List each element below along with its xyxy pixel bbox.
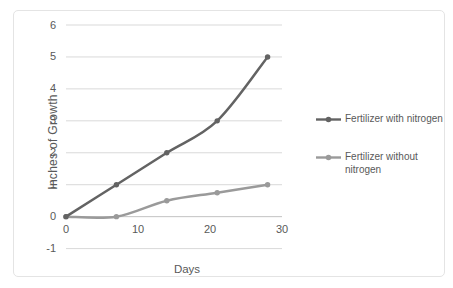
- y-tick-label: -1: [16, 242, 56, 255]
- data-point-series-0: [164, 150, 169, 155]
- legend-line-marker-icon: [315, 113, 342, 126]
- legend-line-marker-icon: [315, 151, 342, 164]
- chart-area: -10123456 0102030 Inches of Growth Days …: [13, 10, 445, 277]
- x-tick-label: 10: [123, 223, 153, 236]
- data-point-series-0: [63, 214, 68, 219]
- data-point-series-1: [114, 214, 119, 219]
- legend-item-1: Fertilizer without nitrogen: [315, 150, 448, 176]
- legend-label: Fertilizer with nitrogen: [345, 112, 448, 125]
- y-axis-title: Inches of Growth: [46, 94, 60, 190]
- data-point-series-1: [164, 198, 169, 203]
- x-tick-label: 0: [51, 223, 81, 236]
- data-point-series-1: [215, 190, 220, 195]
- y-tick-label: 6: [16, 19, 56, 32]
- plot-canvas: [1, 1, 453, 288]
- data-point-series-0: [114, 182, 119, 187]
- x-axis-title: Days: [174, 263, 200, 275]
- data-point-series-0: [215, 118, 220, 123]
- data-point-series-0: [265, 54, 270, 59]
- series-line-0: [66, 57, 268, 217]
- legend-item-0: Fertilizer with nitrogen: [315, 112, 448, 126]
- x-tick-label: 20: [195, 223, 225, 236]
- y-tick-label: 5: [16, 50, 56, 63]
- chart-image: -10123456 0102030 Inches of Growth Days …: [0, 0, 453, 288]
- y-tick-label: 0: [16, 210, 56, 223]
- legend-label: Fertilizer without nitrogen: [345, 150, 448, 176]
- data-point-series-1: [265, 182, 270, 187]
- x-tick-label: 30: [267, 223, 297, 236]
